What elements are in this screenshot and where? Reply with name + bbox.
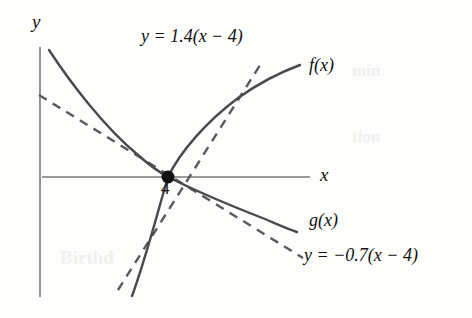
x-axis-label: x [320, 165, 328, 184]
y-axis-label: y [32, 12, 40, 31]
plot-canvas [0, 0, 472, 318]
graph-figure: min tion Birthd y x 4 f(x) g(x) y = 1.4(… [0, 0, 472, 318]
curve-label-g: g(x) [309, 211, 338, 229]
curve-f [132, 65, 300, 296]
x-tick-label-4: 4 [161, 180, 170, 197]
equation-label-tangent-f: y = 1.4(x − 4) [141, 27, 243, 45]
equation-label-tangent-g: y = −0.7(x − 4) [304, 246, 418, 264]
curve-label-f: f(x) [309, 56, 334, 74]
